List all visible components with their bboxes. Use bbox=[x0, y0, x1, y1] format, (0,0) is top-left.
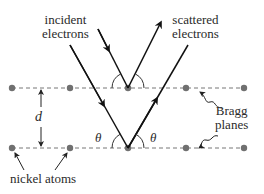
bragg-label-line2: planes bbox=[215, 118, 248, 132]
angle-arc-lower-left bbox=[112, 134, 121, 148]
theta-right-label: θ bbox=[150, 131, 156, 145]
angle-arc-upper-left bbox=[112, 74, 121, 88]
spacing-d-label: d bbox=[35, 110, 42, 124]
scattered-beam-lower bbox=[128, 45, 188, 148]
scattered-label-line2: electrons bbox=[172, 27, 219, 41]
bragg-planes-label: Bragg planes bbox=[215, 104, 248, 132]
incident-electrons-label: incident electrons bbox=[42, 13, 89, 41]
angle-arc-upper-right bbox=[136, 74, 145, 88]
angle-arc-lower-right bbox=[136, 134, 145, 148]
incident-label-line2: electrons bbox=[42, 27, 89, 41]
incident-beam-upper bbox=[98, 29, 128, 88]
bragg-diffraction-diagram bbox=[0, 0, 264, 194]
scattered-electrons-label: scattered electrons bbox=[172, 13, 219, 41]
nickel-atoms-label: nickel atoms bbox=[10, 172, 76, 186]
scattered-label-line1: scattered bbox=[172, 13, 219, 27]
nickel-atom-pointers bbox=[15, 153, 67, 170]
bragg-label-line1: Bragg bbox=[215, 104, 248, 118]
theta-left-label: θ bbox=[95, 131, 101, 145]
scattered-beam-upper bbox=[128, 24, 160, 88]
incident-label-line1: incident bbox=[42, 13, 89, 27]
